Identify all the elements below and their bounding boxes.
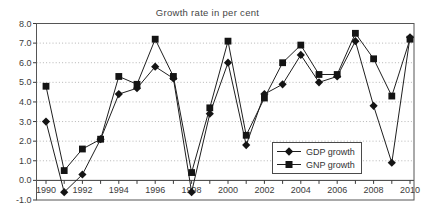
x-tick-label: 2010 — [400, 185, 420, 195]
gnp-data-marker — [407, 36, 414, 43]
legend-label-gnp: GNP growth — [306, 160, 355, 170]
gnp-data-marker — [134, 81, 141, 88]
y-tick-label: 2.0 — [19, 136, 32, 146]
x-tick-label: 1996 — [145, 185, 165, 195]
gnp-data-marker — [388, 93, 395, 100]
gnp-data-marker — [188, 169, 195, 176]
y-tick-label: -1.0 — [16, 195, 32, 205]
gnp-data-marker — [297, 42, 304, 49]
y-tick-label: 0.0 — [19, 175, 32, 185]
gdp-diamond-marker-icon — [276, 146, 302, 157]
chart-title: Growth rate in per cent — [0, 7, 415, 18]
gnp-data-marker — [97, 136, 104, 143]
gnp-square-marker-icon — [276, 159, 302, 170]
gnp-data-marker — [170, 73, 177, 80]
x-tick-label: 2000 — [218, 185, 238, 195]
plot-area: -1.00.01.02.03.04.05.06.07.08.0199019921… — [0, 0, 429, 215]
y-tick-label: 1.0 — [19, 156, 32, 166]
y-tick-label: 5.0 — [19, 77, 32, 87]
y-tick-label: 6.0 — [19, 58, 32, 68]
gnp-data-marker — [225, 38, 232, 45]
legend-label-gdp: GDP growth — [306, 147, 355, 157]
y-tick-label: 3.0 — [19, 117, 32, 127]
x-tick-label: 2004 — [291, 185, 311, 195]
legend-item-gdp: GDP growth — [276, 145, 355, 158]
growth-rate-chart: -1.00.01.02.03.04.05.06.07.08.0199019921… — [0, 0, 429, 215]
gnp-data-marker — [152, 36, 159, 43]
gnp-data-marker — [43, 83, 50, 90]
gnp-data-marker — [316, 71, 323, 78]
gnp-data-marker — [334, 71, 341, 78]
y-tick-label: 8.0 — [19, 19, 32, 29]
gnp-data-marker — [352, 30, 359, 37]
legend-item-gnp: GNP growth — [276, 158, 355, 171]
gnp-data-marker — [61, 167, 68, 174]
x-tick-label: 1992 — [72, 185, 92, 195]
y-tick-label: 7.0 — [19, 38, 32, 48]
gnp-data-marker — [243, 132, 250, 139]
legend: GDP growth GNP growth — [272, 142, 362, 174]
y-tick-label: 4.0 — [19, 97, 32, 107]
x-tick-label: 1994 — [109, 185, 129, 195]
gnp-data-marker — [279, 59, 286, 66]
gnp-data-marker — [261, 95, 268, 102]
x-tick-label: 2002 — [254, 185, 274, 195]
gnp-data-marker — [79, 146, 86, 153]
gnp-data-marker — [370, 55, 377, 62]
x-tick-label: 1990 — [36, 185, 56, 195]
gnp-data-marker — [115, 73, 122, 80]
x-tick-label: 2006 — [327, 185, 347, 195]
gnp-data-marker — [206, 104, 213, 111]
x-tick-label: 2008 — [364, 185, 384, 195]
